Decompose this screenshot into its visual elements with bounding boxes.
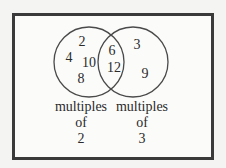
- member-2: 2: [79, 35, 86, 49]
- member-12: 12: [107, 61, 121, 75]
- member-10: 10: [82, 56, 96, 70]
- member-6: 6: [109, 44, 116, 58]
- label-multiples-of-3: multiples of 3: [102, 99, 182, 147]
- member-8: 8: [78, 72, 85, 86]
- member-9: 9: [142, 67, 149, 81]
- member-4: 4: [66, 51, 73, 65]
- label-line: of: [102, 115, 182, 131]
- label-line: 3: [102, 131, 182, 147]
- label-line: multiples: [102, 99, 182, 115]
- member-3: 3: [134, 38, 141, 52]
